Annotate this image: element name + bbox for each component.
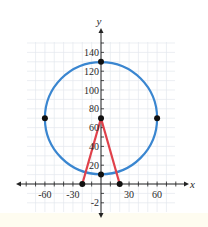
x-tick-label: -30 — [66, 189, 79, 200]
x-tick-label: 60 — [152, 189, 162, 200]
data-point — [42, 115, 48, 121]
y-tick-label: 100 — [84, 85, 99, 96]
y-tick-label: 80 — [89, 103, 99, 114]
y-tick-label: 20 — [89, 160, 99, 171]
x-axis-left-arrow-icon — [16, 182, 21, 187]
data-point — [98, 172, 104, 178]
data-point — [98, 59, 104, 65]
y-tick-label: 120 — [84, 66, 99, 77]
data-point — [117, 181, 123, 187]
y-tick-label: 140 — [84, 47, 99, 58]
x-axis-right-arrow-icon — [184, 182, 189, 187]
x-axis-label: x — [189, 178, 195, 190]
data-point — [154, 115, 160, 121]
x-tick-label: 30 — [124, 189, 134, 200]
y-axis-down-arrow-icon — [99, 213, 104, 218]
data-point — [98, 115, 104, 121]
y-tick-label: 60 — [89, 122, 99, 133]
y-axis-label: y — [96, 15, 102, 27]
coordinate-plane-chart: -60-303060-220406080100120140xy — [0, 0, 208, 227]
y-axis-up-arrow-icon — [99, 28, 104, 33]
x-tick-label: -60 — [38, 189, 51, 200]
y-tick-label: 40 — [89, 141, 99, 152]
y-tick-label: -2 — [91, 197, 99, 208]
data-point — [79, 181, 85, 187]
